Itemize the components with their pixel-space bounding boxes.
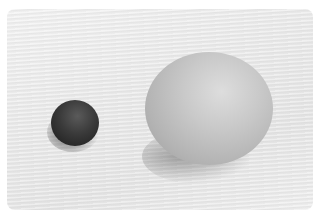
dark-ball [51,100,99,146]
egg [145,52,273,165]
photo: Grayscale photo of a small dark round ba… [7,9,313,210]
